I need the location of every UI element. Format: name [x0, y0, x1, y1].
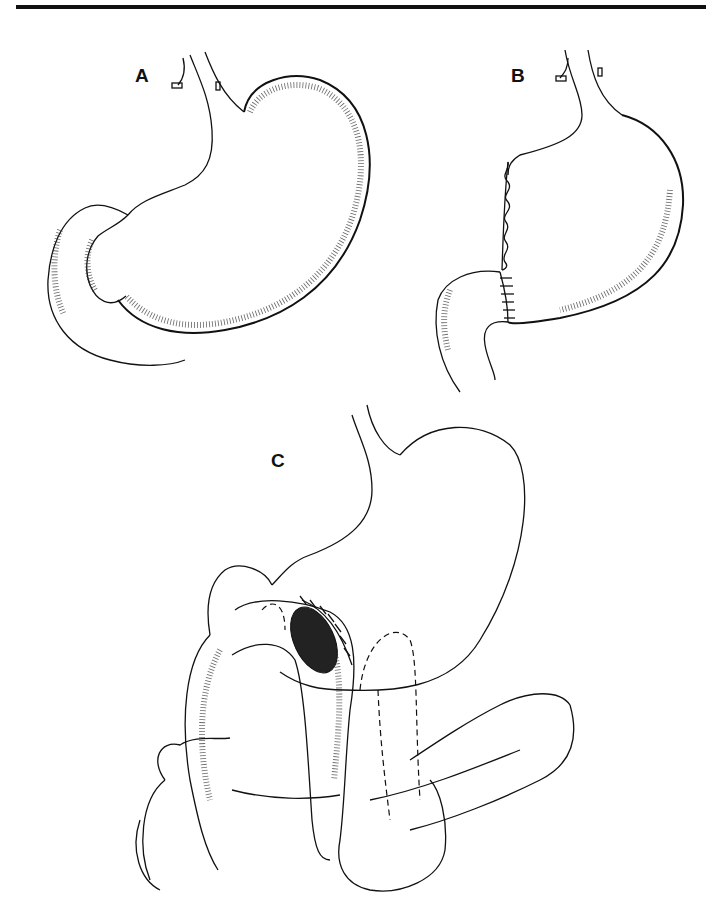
illustration — [0, 0, 715, 922]
panel-a-stomach — [48, 52, 370, 365]
panel-b-stomach — [436, 50, 683, 392]
panel-c-gastrojejunostomy — [136, 405, 574, 891]
clip-icon — [216, 82, 220, 90]
clip-icon — [172, 83, 182, 88]
clip-icon — [598, 68, 602, 76]
